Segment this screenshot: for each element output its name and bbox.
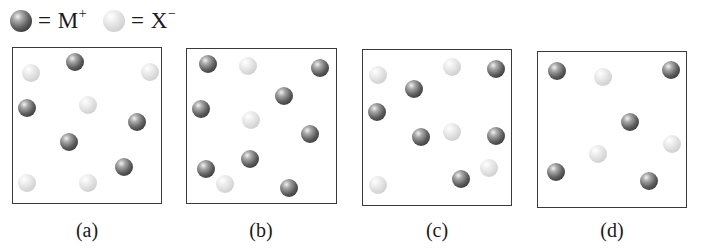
cation-sphere-icon [405, 80, 423, 98]
cation-sphere-icon [128, 113, 146, 131]
anion-sphere-icon [242, 111, 260, 129]
cation-sphere-icon [452, 170, 470, 188]
cation-sphere-icon [487, 127, 505, 145]
panel-caption-b: (b) [249, 219, 272, 242]
cation-sphere-icon [487, 60, 505, 78]
cation-sphere-icon [197, 160, 215, 178]
anion-sphere-icon [369, 176, 387, 194]
anion-sphere-icon [663, 135, 681, 153]
cation-sphere-icon [412, 128, 430, 146]
panel-caption-c: (c) [426, 219, 448, 242]
panel-caption-a: (a) [76, 219, 98, 242]
anion-sphere-icon [443, 123, 461, 141]
anion-sphere-icon [369, 66, 387, 84]
legend: = M+ = X− [10, 6, 192, 36]
cation-sphere-icon [311, 59, 329, 77]
dark-sphere-icon [10, 10, 32, 32]
panel-caption-d: (d) [600, 219, 623, 242]
anion-sphere-icon [443, 58, 461, 76]
anion-sphere-icon [239, 57, 257, 75]
cation-sphere-icon [640, 172, 658, 190]
cation-sphere-icon [301, 125, 319, 143]
cation-sphere-icon [547, 163, 565, 181]
cation-sphere-icon [662, 61, 680, 79]
anion-sphere-icon [216, 175, 234, 193]
anion-sphere-icon [141, 63, 159, 81]
anion-sphere-icon [22, 64, 40, 82]
cation-sphere-icon [275, 87, 293, 105]
legend-label-cation: = M+ [38, 8, 87, 34]
light-sphere-icon [103, 10, 125, 32]
cation-sphere-icon [192, 100, 210, 118]
anion-sphere-icon [589, 145, 607, 163]
legend-item-cation: = M+ [10, 8, 87, 34]
cation-sphere-icon [280, 179, 298, 197]
anion-sphere-icon [79, 174, 97, 192]
cation-sphere-icon [368, 103, 386, 121]
legend-label-anion: = X− [131, 8, 176, 34]
cation-sphere-icon [199, 55, 217, 73]
anion-sphere-icon [79, 96, 97, 114]
anion-sphere-icon [18, 174, 36, 192]
anion-sphere-icon [480, 159, 498, 177]
cation-sphere-icon [66, 53, 84, 71]
cation-sphere-icon [621, 113, 639, 131]
cation-sphere-icon [60, 133, 78, 151]
cation-sphere-icon [18, 99, 36, 117]
cation-sphere-icon [548, 62, 566, 80]
legend-item-anion: = X− [103, 8, 176, 34]
cation-sphere-icon [115, 158, 133, 176]
anion-sphere-icon [594, 68, 612, 86]
cation-sphere-icon [241, 150, 259, 168]
